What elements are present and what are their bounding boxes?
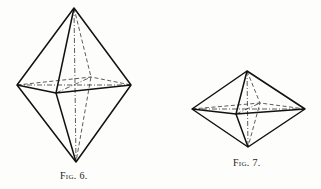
figure-6-caption: Fig. 6.	[60, 170, 88, 181]
fig6-front-equator	[17, 85, 131, 93]
fig6-hidden-equator-back	[17, 77, 131, 85]
fig7-outline	[192, 71, 305, 147]
figures-canvas	[0, 0, 321, 189]
fig7-front-equator	[192, 109, 305, 114]
figure-6-octahedron	[17, 8, 131, 162]
figure-7-octahedron	[192, 71, 305, 147]
figure-7-caption: Fig. 7.	[233, 157, 261, 168]
